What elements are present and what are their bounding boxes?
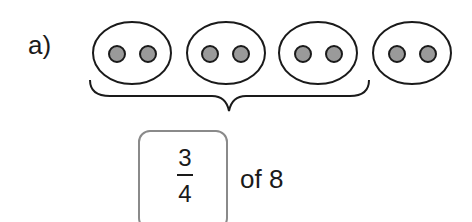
groups-diagram xyxy=(0,0,472,222)
dot xyxy=(420,46,436,62)
dot xyxy=(202,46,218,62)
dot xyxy=(233,46,249,62)
fraction-box: 3 4 xyxy=(138,130,228,222)
group-2 xyxy=(187,22,265,84)
dot xyxy=(326,46,342,62)
fraction-bar xyxy=(177,174,193,176)
fraction: 3 4 xyxy=(140,146,230,206)
dot xyxy=(389,46,405,62)
group-1 xyxy=(93,22,171,84)
dot xyxy=(140,46,156,62)
fraction-numerator: 3 xyxy=(140,146,230,170)
dot xyxy=(295,46,311,62)
group-4 xyxy=(373,22,451,84)
group-3 xyxy=(279,22,357,84)
fraction-denominator: 4 xyxy=(140,182,230,206)
of-text: of 8 xyxy=(240,164,283,195)
dot xyxy=(109,46,125,62)
